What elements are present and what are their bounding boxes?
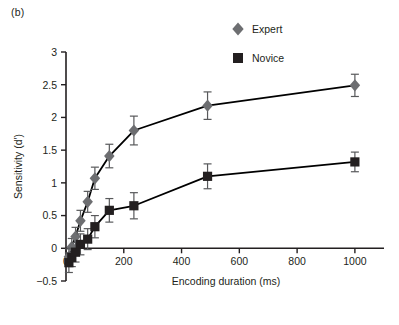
y-axis-tick-label: 0.5 xyxy=(42,209,57,221)
legend-marker-diamond-icon xyxy=(232,22,243,35)
panel-label: (b) xyxy=(11,6,24,18)
x-axis-tick-label: 200 xyxy=(115,255,133,267)
legend-item-expert: Expert xyxy=(232,22,282,35)
legend-label: Expert xyxy=(252,23,282,35)
x-axis-tick-label: 1000 xyxy=(343,255,367,267)
y-axis-tick-label: −0.5 xyxy=(36,275,57,287)
y-axis-tick-label: 0 xyxy=(51,242,57,254)
x-axis-title: Encoding duration (ms) xyxy=(172,275,281,287)
axes-layer: −0.500.511.522.53Sensitivity (d′)0200400… xyxy=(12,46,384,287)
data-point xyxy=(350,79,361,91)
series-line xyxy=(69,85,355,256)
sensitivity-vs-encoding-duration-chart: −0.500.511.522.53Sensitivity (d′)0200400… xyxy=(0,0,399,325)
data-point xyxy=(75,215,86,227)
data-layer xyxy=(64,74,361,272)
data-point xyxy=(350,157,359,166)
data-point xyxy=(90,222,99,231)
legend-layer: ExpertNovice xyxy=(232,22,284,64)
y-axis-tick-label: 3 xyxy=(51,46,57,58)
series-novice xyxy=(64,152,359,272)
x-axis-tick-label: 400 xyxy=(173,255,191,267)
legend-item-novice: Novice xyxy=(233,52,284,64)
legend-label: Novice xyxy=(252,52,284,64)
data-point xyxy=(202,100,213,112)
x-axis-tick-label: 600 xyxy=(231,255,249,267)
y-axis-tick-label: 1.5 xyxy=(42,144,57,156)
legend-marker-square-icon xyxy=(233,53,243,63)
y-axis-title: Sensitivity (d′) xyxy=(12,134,24,199)
series-expert xyxy=(64,74,361,264)
data-point xyxy=(203,172,212,181)
x-axis-tick-label: 800 xyxy=(288,255,306,267)
data-point xyxy=(71,248,80,257)
y-axis-tick-label: 2 xyxy=(51,111,57,123)
figure-panel: (b) −0.500.511.522.53Sensitivity (d′)020… xyxy=(0,0,399,325)
y-axis-tick-label: 1 xyxy=(51,177,57,189)
data-point xyxy=(83,235,92,244)
data-point xyxy=(82,196,93,208)
data-point xyxy=(105,206,114,215)
data-point xyxy=(129,201,138,210)
y-axis-tick-label: 2.5 xyxy=(42,79,57,91)
